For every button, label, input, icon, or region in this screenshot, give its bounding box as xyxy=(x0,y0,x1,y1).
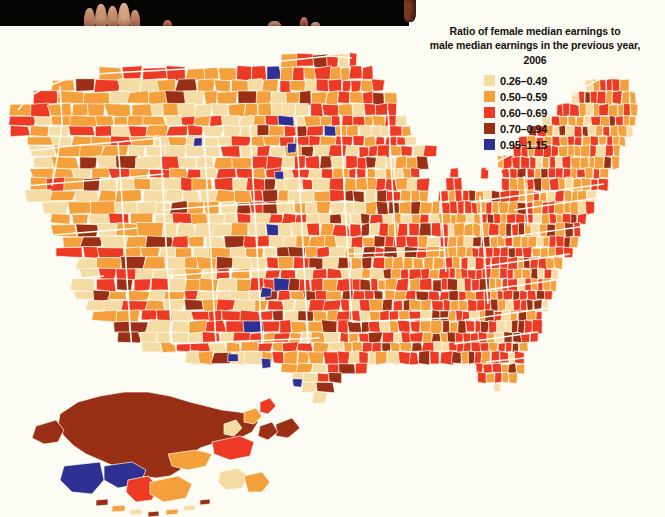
county-area xyxy=(48,126,68,137)
county-area xyxy=(170,279,187,293)
county-area xyxy=(255,300,268,312)
county-area xyxy=(269,214,283,223)
county-area xyxy=(349,168,356,178)
county-area xyxy=(458,320,467,334)
county-area xyxy=(354,247,362,258)
county-area xyxy=(338,351,350,365)
legend-color-swatch xyxy=(484,75,495,86)
county-area xyxy=(430,351,439,364)
county-area xyxy=(171,321,190,333)
county-area xyxy=(329,372,342,383)
county-area xyxy=(47,103,72,117)
county-area xyxy=(134,279,151,292)
county-area xyxy=(518,320,525,333)
county-area xyxy=(267,66,282,81)
map-legend: Ratio of female median earnings to male … xyxy=(408,24,662,153)
county-area xyxy=(163,299,186,311)
county-area xyxy=(282,156,295,169)
county-area xyxy=(338,91,351,104)
aleutian-island xyxy=(200,499,210,505)
county-area xyxy=(262,321,280,332)
legend-range-label: 0.70–0.94 xyxy=(500,123,547,135)
county-area xyxy=(129,322,148,333)
county-area xyxy=(290,291,305,300)
county-area xyxy=(257,236,270,247)
county-area xyxy=(387,351,400,365)
county-area xyxy=(353,136,365,146)
county-area xyxy=(532,248,541,257)
county-area xyxy=(409,269,422,280)
county-area xyxy=(270,91,287,104)
county-area xyxy=(170,201,189,215)
county-area xyxy=(177,223,197,238)
county-area xyxy=(549,178,560,191)
county-area xyxy=(330,66,342,81)
county-area xyxy=(406,236,419,248)
county-area xyxy=(283,104,297,117)
county-area xyxy=(206,236,226,248)
county-area xyxy=(506,320,512,332)
county-area xyxy=(143,257,165,270)
county-area xyxy=(265,179,277,192)
county-area xyxy=(307,223,320,236)
county-area xyxy=(400,190,411,202)
county-area xyxy=(541,214,549,225)
county-area xyxy=(316,382,335,393)
county-area xyxy=(397,320,410,333)
alaska-region-050-059 xyxy=(244,472,270,492)
county-area xyxy=(509,177,518,191)
county-area xyxy=(251,213,271,224)
county-area xyxy=(448,311,456,322)
county-area xyxy=(519,342,528,351)
county-area xyxy=(390,342,400,352)
county-area xyxy=(375,351,387,365)
county-area xyxy=(347,322,362,333)
county-area xyxy=(258,343,273,351)
county-area xyxy=(335,236,353,247)
county-area xyxy=(386,169,395,180)
county-area xyxy=(570,201,579,215)
county-area xyxy=(356,169,365,179)
legend-range-label: 0.60–0.69 xyxy=(500,107,547,119)
county-area xyxy=(352,342,363,352)
county-area xyxy=(398,310,410,320)
county-area xyxy=(263,136,282,146)
county-area xyxy=(432,334,442,343)
county-area xyxy=(385,278,397,290)
county-area xyxy=(278,290,291,300)
county-area xyxy=(80,157,98,170)
county-area xyxy=(204,201,219,214)
legend-range-label: 0.50–0.59 xyxy=(500,91,547,103)
county-area xyxy=(395,178,408,190)
county-area xyxy=(296,104,309,117)
county-area xyxy=(439,268,450,279)
county-area xyxy=(589,157,595,169)
county-area xyxy=(192,178,212,190)
county-area xyxy=(320,116,332,126)
county-area xyxy=(508,373,517,384)
county-area xyxy=(428,291,440,301)
county-area xyxy=(214,80,230,93)
county-area xyxy=(389,320,398,333)
county-area xyxy=(64,178,86,191)
county-area xyxy=(132,104,153,117)
county-area xyxy=(323,352,340,365)
county-area xyxy=(230,247,246,258)
county-area xyxy=(466,213,473,223)
county-area xyxy=(412,343,424,352)
county-area xyxy=(165,115,182,125)
county-area xyxy=(356,177,368,190)
county-area xyxy=(362,342,373,352)
county-area xyxy=(516,214,525,224)
county-area xyxy=(256,91,272,105)
county-area xyxy=(586,191,597,202)
county-area xyxy=(328,145,347,157)
county-area xyxy=(292,169,310,178)
county-area xyxy=(527,290,536,300)
county-area xyxy=(422,332,432,343)
county-area xyxy=(302,382,318,393)
county-area xyxy=(450,300,460,310)
county-area xyxy=(83,92,110,105)
county-area xyxy=(369,214,383,224)
county-area xyxy=(477,300,485,311)
